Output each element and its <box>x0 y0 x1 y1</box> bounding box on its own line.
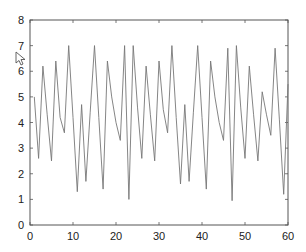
y-axis-tick-labels: 012345678 <box>18 14 24 231</box>
y-tick-label: 0 <box>18 219 24 231</box>
y-tick-label: 1 <box>18 193 24 205</box>
x-tick-label: 50 <box>239 230 251 242</box>
y-tick-label: 4 <box>18 117 24 129</box>
x-tick-label: 20 <box>110 230 122 242</box>
y-tick-label: 6 <box>18 65 24 77</box>
line-chart: 0102030405060 012345678 <box>0 0 306 252</box>
y-tick-label: 5 <box>18 91 24 103</box>
x-tick-label: 40 <box>196 230 208 242</box>
y-tick-label: 8 <box>18 14 24 26</box>
mouse-pointer-icon <box>16 52 25 65</box>
x-tick-label: 30 <box>153 230 165 242</box>
x-axis-tick-labels: 0102030405060 <box>27 230 294 242</box>
x-tick-label: 60 <box>282 230 294 242</box>
y-tick-label: 3 <box>18 142 24 154</box>
x-tick-label: 0 <box>27 230 33 242</box>
y-tick-label: 2 <box>18 168 24 180</box>
y-tick-label: 7 <box>18 40 24 52</box>
x-tick-label: 10 <box>67 230 79 242</box>
